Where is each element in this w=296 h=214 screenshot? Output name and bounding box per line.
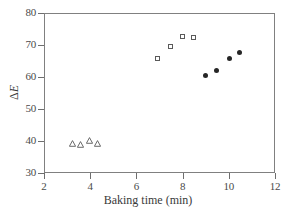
scatter-chart-figure: 304050607080 24681012 ΔE Baking time (mi… [0, 0, 296, 214]
x-axis-tick [44, 173, 45, 179]
data-point-open-squares [191, 35, 196, 40]
y-axis-tick-label: 70 [10, 39, 36, 50]
y-axis-tick [38, 109, 44, 110]
data-point-open-triangles [94, 133, 101, 140]
x-axis-tick-label: 2 [31, 180, 57, 192]
x-axis-tick-label: 10 [216, 180, 242, 192]
data-point-open-squares [168, 44, 173, 49]
y-axis-title-e: E [7, 85, 21, 92]
x-axis-tick [183, 173, 184, 179]
x-axis-tick [90, 173, 91, 179]
y-axis-tick-label: 30 [10, 167, 36, 178]
data-point-open-squares [155, 56, 160, 61]
x-axis-tick [229, 173, 230, 179]
data-point-filled-circles [203, 73, 208, 78]
x-axis-tick-label: 12 [262, 180, 288, 192]
x-axis-title: Baking time (min) [0, 194, 296, 207]
data-point-open-squares [180, 34, 185, 39]
data-point-filled-circles [227, 56, 232, 61]
y-axis-tick [38, 45, 44, 46]
y-axis-tick [38, 77, 44, 78]
y-axis-tick-label: 80 [10, 7, 36, 18]
x-axis-tick-label: 4 [77, 180, 103, 192]
y-axis-title: ΔE [8, 63, 21, 123]
y-axis-tick-label: 40 [10, 135, 36, 146]
x-axis-tick [275, 173, 276, 179]
data-point-open-triangles [77, 134, 84, 141]
y-axis-title-delta: Δ [7, 92, 21, 100]
y-axis-tick [38, 141, 44, 142]
data-point-open-triangles [69, 133, 76, 140]
y-axis-tick [38, 13, 44, 14]
x-axis-tick [136, 173, 137, 179]
data-point-open-triangles [86, 130, 93, 137]
x-axis-tick-label: 8 [170, 180, 196, 192]
plot-area-frame [44, 13, 275, 173]
x-axis-tick-label: 6 [123, 180, 149, 192]
